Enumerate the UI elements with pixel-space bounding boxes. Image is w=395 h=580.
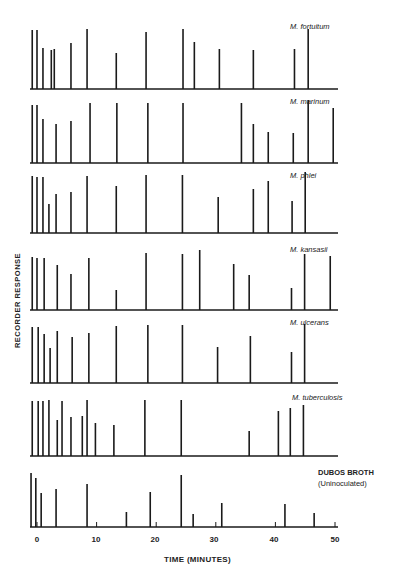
x-tick-10: 10 [86, 535, 106, 544]
x-tick-40: 40 [264, 535, 284, 544]
panel-m-tuberculosis [30, 400, 338, 456]
chromatogram-chart [0, 0, 395, 580]
x-tick-30: 30 [204, 535, 224, 544]
panel-label: M. fortuitum [290, 22, 330, 31]
x-tick-0: 0 [27, 535, 47, 544]
panel-m-kansasii [30, 250, 338, 310]
panel-m-ulcerans [30, 324, 338, 383]
panel-label: DUBOS BROTH(Uninoculated) [318, 467, 374, 489]
panel-m-marinum [30, 100, 338, 163]
panel-label: M. ulcerans [290, 318, 329, 327]
x-tick-20: 20 [145, 535, 165, 544]
panel-sublabel: (Uninoculated) [318, 479, 367, 488]
panel-label: M. phlei [290, 171, 316, 180]
x-tick-50: 50 [325, 535, 345, 544]
panel-label: M. marinum [290, 97, 330, 106]
panel-label: M. kansasii [290, 245, 328, 254]
panel-dubos-broth [30, 473, 338, 527]
x-axis-label: TIME (MINUTES) [0, 555, 395, 564]
panel-m-phlei [30, 172, 338, 233]
panel-label: M. tuberculosis [292, 393, 342, 402]
panel-m-fortuitum [30, 29, 338, 89]
y-axis-label: RECORDER RESPONSE [13, 236, 22, 366]
